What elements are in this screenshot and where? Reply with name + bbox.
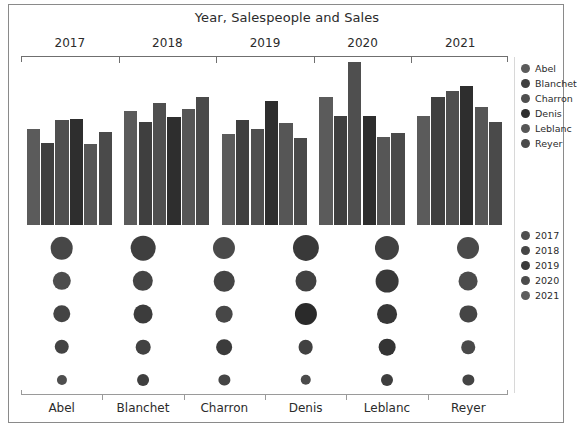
bottom-axis-tick [265, 395, 266, 400]
bottom-axis-tick [102, 395, 103, 400]
salesperson-tick-label-charron: Charron [200, 401, 248, 415]
legend-salesperson-label: Denis [535, 107, 562, 120]
salesperson-tick-label-leblanc: Leblanc [364, 401, 410, 415]
dot-2021-denis[interactable] [300, 375, 310, 385]
bottom-axis-tick [346, 395, 347, 400]
dot-2018-blanchet[interactable] [133, 271, 153, 291]
dot-2018-abel[interactable] [52, 272, 70, 290]
legend-swatch-icon [521, 124, 530, 133]
legend-swatch-icon [521, 246, 530, 255]
dot-2018-leblanc[interactable] [376, 270, 399, 293]
legend-swatch-icon [521, 231, 530, 240]
legend-swatch-icon [521, 139, 530, 148]
dot-2020-reyer[interactable] [462, 340, 476, 354]
dot-2019-reyer[interactable] [460, 305, 477, 322]
dot-2018-denis[interactable] [295, 271, 316, 292]
dot-2017-blanchet[interactable] [131, 236, 156, 261]
dot-2017-denis[interactable] [293, 235, 319, 261]
salesperson-tick-label-reyer: Reyer [451, 401, 486, 415]
chart-frame: Year, Salespeople and Sales 201720182019… [8, 4, 564, 423]
legend-salesperson-label: Blanchet [535, 77, 577, 90]
dot-2021-blanchet[interactable] [137, 374, 149, 386]
legend-salesperson-label: Abel [535, 62, 556, 75]
dot-2019-blanchet[interactable] [134, 305, 153, 324]
salesperson-tick-label-denis: Denis [289, 401, 323, 415]
legend-divider [514, 57, 515, 393]
dot-2020-leblanc[interactable] [379, 339, 396, 356]
legend-swatch-icon [521, 276, 530, 285]
legend-year-label: 2017 [535, 229, 559, 242]
legend-swatch-icon [521, 64, 530, 73]
dot-2021-charron[interactable] [219, 374, 230, 385]
bottom-axis-tick [184, 395, 185, 400]
salesperson-tick-label-blanchet: Blanchet [117, 401, 170, 415]
dot-2021-abel[interactable] [57, 375, 67, 385]
legend-swatch-icon [521, 291, 530, 300]
dot-2020-abel[interactable] [54, 340, 68, 354]
legend-year-label: 2020 [535, 274, 559, 287]
legend-salesperson-label: Reyer [535, 137, 562, 150]
dot-2019-charron[interactable] [216, 306, 233, 323]
dot-2018-reyer[interactable] [459, 272, 478, 291]
legend-year-label: 2018 [535, 244, 559, 257]
dot-2021-reyer[interactable] [463, 374, 474, 385]
legend-year-label: 2021 [535, 289, 559, 302]
dot-2017-abel[interactable] [50, 237, 73, 260]
dot-2019-abel[interactable] [53, 305, 70, 322]
dot-2020-denis[interactable] [298, 340, 313, 355]
bottom-axis-end-cap [21, 390, 22, 395]
bottom-axis-end-cap [507, 390, 508, 395]
legend-year-label: 2019 [535, 259, 559, 272]
legend-swatch-icon [521, 94, 530, 103]
dot-2017-charron[interactable] [213, 237, 235, 259]
bottom-name-axis-line [21, 394, 507, 395]
salesperson-tick-label-abel: Abel [48, 401, 75, 415]
legend-salesperson-label: Charron [535, 92, 573, 105]
dot-2019-leblanc[interactable] [377, 304, 397, 324]
dot-2017-reyer[interactable] [457, 237, 479, 259]
dot-2019-denis[interactable] [295, 303, 317, 325]
dot-2020-charron[interactable] [216, 339, 232, 355]
dot-matrix-layer [9, 5, 565, 424]
bottom-axis-tick [428, 395, 429, 400]
legend-swatch-icon [521, 261, 530, 270]
legend-salesperson-label: Leblanc [535, 122, 572, 135]
dot-2018-charron[interactable] [214, 271, 235, 292]
legend-swatch-icon [521, 79, 530, 88]
dot-2017-leblanc[interactable] [375, 236, 399, 260]
dot-2020-blanchet[interactable] [136, 340, 151, 355]
legend-swatch-icon [521, 109, 530, 118]
dot-2021-leblanc[interactable] [381, 374, 393, 386]
